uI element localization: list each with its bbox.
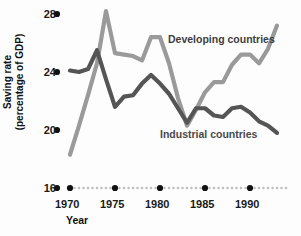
y-axis-title-line1: Saving rate (2, 16, 14, 148)
x-axis-minor-tick-dot (154, 187, 157, 190)
y-axis-title: Saving rate (percentage of GDP) (2, 16, 42, 148)
x-axis-minor-tick-dot (199, 187, 202, 190)
x-tick-label-1980: 1980 (145, 198, 169, 210)
x-axis-dotted-baseline (54, 185, 287, 191)
x-tick-label-1985: 1985 (190, 198, 214, 210)
x-axis-minor-tick-dot (172, 187, 175, 190)
x-axis-minor-tick-dot (181, 187, 184, 190)
x-tick-label-1990: 1990 (235, 198, 259, 210)
y-axis-title-line2: (percentage of GDP) (14, 16, 26, 148)
series-label-industrial: Industrial countries (160, 128, 257, 140)
x-axis-minor-tick-dot (91, 187, 94, 190)
x-axis-minor-tick-dot (109, 187, 112, 190)
x-axis-minor-tick-dot (231, 187, 234, 190)
x-axis-minor-tick-dot (177, 187, 180, 190)
x-axis-minor-tick-dot (127, 187, 130, 190)
x-axis-minor-tick-dot (168, 187, 171, 190)
x-axis-minor-tick-dot (78, 187, 81, 190)
x-axis-minor-tick-dot (100, 187, 103, 190)
x-axis-minor-tick-dot (276, 187, 279, 190)
x-axis-minor-tick-dot (235, 187, 238, 190)
x-axis-minor-tick-dot (258, 187, 261, 190)
x-axis-minor-tick-dot (280, 187, 283, 190)
x-axis-minor-tick-dot (141, 187, 144, 190)
x-tick-label-1975: 1975 (100, 198, 124, 210)
x-axis-minor-tick-dot (190, 187, 193, 190)
x-axis-minor-tick-dot (285, 187, 288, 190)
x-axis-minor-tick-dot (132, 187, 135, 190)
x-axis-minor-tick-dot (118, 187, 121, 190)
chart-figure: 28 24 20 16 1970 1975 1980 1985 1990 Sav… (0, 0, 301, 236)
x-axis-minor-tick-dot (123, 187, 126, 190)
x-axis-minor-tick-dot (208, 187, 211, 190)
x-axis-minor-tick-dot (222, 187, 225, 190)
y-tick-label-16: 16 (36, 182, 56, 194)
x-axis-minor-tick-dot (253, 187, 256, 190)
x-tick-label-1970: 1970 (55, 198, 79, 210)
x-axis-minor-tick-dot (262, 187, 265, 190)
x-axis-major-tick-dot (112, 185, 118, 191)
x-axis-minor-tick-dot (271, 187, 274, 190)
x-axis-minor-tick-dot (82, 187, 85, 190)
x-axis-minor-tick-dot (73, 187, 76, 190)
x-axis-minor-tick-dot (195, 187, 198, 190)
x-axis-minor-tick-dot (186, 187, 189, 190)
x-axis-major-tick-dot (202, 185, 208, 191)
x-axis-title: Year (66, 214, 88, 226)
x-axis-minor-tick-dot (136, 187, 139, 190)
series-line-industrial-countries (70, 50, 277, 133)
x-axis-minor-tick-dot (240, 187, 243, 190)
x-axis-minor-tick-dot (87, 187, 90, 190)
x-axis-minor-tick-dot (145, 187, 148, 190)
x-axis-minor-tick-dot (226, 187, 229, 190)
x-axis-major-tick-dot (157, 185, 163, 191)
x-axis-minor-tick-dot (163, 187, 166, 190)
x-axis-minor-tick-dot (150, 187, 153, 190)
x-axis-minor-tick-dot (213, 187, 216, 190)
x-axis-minor-tick-dot (96, 187, 99, 190)
x-axis-major-tick-dot (67, 185, 73, 191)
x-axis-minor-tick-dot (244, 187, 247, 190)
x-axis-minor-tick-dot (267, 187, 270, 190)
series-label-developing: Developing countries (168, 33, 275, 45)
x-axis-minor-tick-dot (217, 187, 220, 190)
x-axis-major-tick-dot (247, 185, 253, 191)
x-axis-minor-tick-dot (105, 187, 108, 190)
